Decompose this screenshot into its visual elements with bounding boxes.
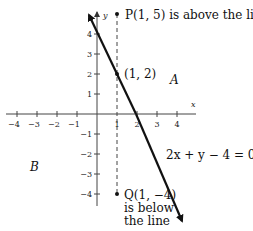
svg-text:−1: −1 bbox=[68, 120, 80, 129]
point-q-note-2: the line bbox=[124, 214, 170, 228]
region-b-label: B bbox=[29, 160, 39, 174]
point-p-label: P(1, 5) is above the line bbox=[125, 8, 253, 22]
svg-text:4: 4 bbox=[174, 120, 179, 129]
svg-text:−3: −3 bbox=[28, 120, 40, 129]
svg-text:−2: −2 bbox=[48, 120, 60, 129]
svg-text:−2: −2 bbox=[80, 150, 92, 159]
x-axis-label: x bbox=[191, 100, 196, 109]
point-q-label: Q(1, −4) bbox=[124, 188, 176, 202]
svg-text:−3: −3 bbox=[80, 170, 92, 179]
coordinate-diagram: x y −4 −3 −2 −1 1 2 3 4 4 3 2 1 −1 bbox=[0, 0, 253, 231]
svg-text:−1: −1 bbox=[80, 130, 92, 139]
point-mid-label: (1, 2) bbox=[124, 67, 156, 81]
point-p bbox=[115, 12, 119, 16]
svg-text:3: 3 bbox=[154, 120, 159, 129]
point-q bbox=[115, 192, 119, 196]
point-mid bbox=[115, 72, 119, 76]
point-q-note-1: is below bbox=[124, 201, 175, 215]
svg-text:−4: −4 bbox=[80, 190, 92, 199]
svg-text:−4: −4 bbox=[8, 120, 20, 129]
x-tick-labels: −4 −3 −2 −1 1 2 3 4 bbox=[8, 120, 179, 129]
svg-text:2: 2 bbox=[87, 70, 92, 79]
region-a-label: A bbox=[169, 73, 179, 87]
line-2x-y-4-upper bbox=[89, 15, 136, 114]
svg-text:3: 3 bbox=[87, 50, 92, 59]
equation-label: 2x + y − 4 = 0 bbox=[166, 148, 253, 162]
svg-text:4: 4 bbox=[87, 30, 92, 39]
svg-text:1: 1 bbox=[87, 90, 92, 99]
y-axis-label: y bbox=[102, 11, 108, 20]
